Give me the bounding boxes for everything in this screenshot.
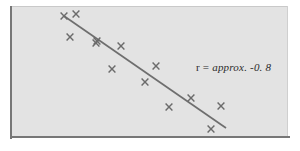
data-point-marker (188, 95, 195, 102)
data-point-marker (67, 34, 74, 41)
correlation-equals: = (203, 61, 209, 73)
data-point-marker (218, 103, 225, 110)
data-point-marker (118, 43, 125, 50)
scatter-layer (0, 0, 300, 151)
data-point-marker (153, 63, 160, 70)
data-point-marker (208, 126, 215, 133)
data-point-marker (73, 11, 80, 18)
correlation-value: approx. -0. 8 (212, 61, 271, 73)
data-point-marker (61, 13, 68, 20)
scatter-plot-figure: r = approx. -0. 8 (0, 0, 300, 151)
correlation-symbol: r (196, 61, 200, 73)
data-point-marker (142, 79, 149, 86)
correlation-annotation: r = approx. -0. 8 (196, 61, 271, 73)
data-point-marker (166, 104, 173, 111)
data-point-marker (109, 66, 116, 73)
